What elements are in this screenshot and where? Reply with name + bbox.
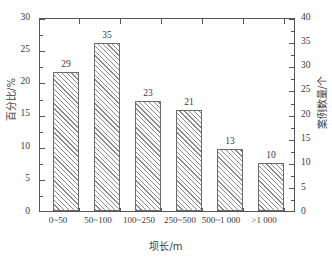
axis-tick [120,19,121,24]
axis-tick [40,100,43,101]
axis-tick [289,188,294,189]
y-left-tick-label: 5 [25,174,30,184]
axis-tick [243,19,244,24]
y-right-tick-label: 0 [301,207,306,217]
axis-tick [284,208,285,211]
bar-chart: 30 25 20 15 10 5 0 40 35 30 25 20 15 10 … [0,0,332,259]
axis-tick [202,19,203,24]
axis-tick [289,164,294,165]
axis-tick [161,208,162,211]
bar [258,163,284,211]
bar [94,43,120,211]
bar-value-label: 10 [251,151,291,161]
bar [135,101,161,211]
x-axis-title: 坝长/m [0,238,332,253]
axis-tick [120,208,121,211]
y-left-axis-title: 百分比/% [3,72,18,128]
axis-tick [40,148,45,149]
y-right-tick-label: 15 [301,134,311,144]
y-left-tick-label: 25 [21,45,31,55]
axis-tick [291,104,294,105]
axis-tick [291,79,294,80]
bar-value-label: 23 [128,89,168,99]
x-tick-label: >1 000 [234,216,294,225]
axis-tick [289,91,294,92]
y-right-tick-label: 30 [301,61,311,71]
axis-tick [243,208,244,211]
axis-tick [40,211,45,212]
axis-tick [40,116,45,117]
axis-tick [79,19,80,24]
bar [217,149,243,211]
axis-tick [40,180,45,181]
axis-tick [40,164,43,165]
axis-tick [289,43,294,44]
bar [53,72,79,211]
bar-value-label: 13 [210,137,250,147]
axis-tick [79,208,80,211]
axis-tick [40,19,45,20]
axis-tick [291,152,294,153]
axis-tick [40,196,43,197]
axis-tick [40,35,43,36]
axis-tick [291,176,294,177]
bar-value-label: 29 [46,60,86,70]
bar-value-label: 35 [87,31,127,41]
axis-tick [291,128,294,129]
y-left-tick-label: 15 [21,109,31,119]
axis-tick [289,67,294,68]
axis-tick [289,211,294,212]
plot-area: 29 35 23 21 13 10 [39,18,295,212]
y-right-tick-label: 5 [301,183,306,193]
axis-tick [291,31,294,32]
bar [176,110,202,211]
y-right-tick-label: 25 [301,85,311,95]
axis-tick [40,51,45,52]
y-left-tick-label: 10 [21,142,31,152]
y-right-tick-label: 40 [301,13,311,23]
y-left-tick-label: 30 [21,13,31,23]
axis-tick [291,200,294,201]
bar-value-label: 21 [169,98,209,108]
axis-tick [202,208,203,211]
axis-tick [40,132,43,133]
axis-tick [289,140,294,141]
axis-tick [284,19,285,24]
y-left-tick-label: 20 [21,77,31,87]
y-right-axis-title: 案例数量/个 [314,73,329,133]
y-right-tick-label: 20 [301,110,311,120]
y-right-tick-label: 35 [301,37,311,47]
axis-tick [40,67,43,68]
axis-tick [291,55,294,56]
axis-tick [161,19,162,24]
axis-tick [289,19,294,20]
axis-tick [289,116,294,117]
y-right-tick-label: 10 [301,158,311,168]
axis-tick [40,83,45,84]
